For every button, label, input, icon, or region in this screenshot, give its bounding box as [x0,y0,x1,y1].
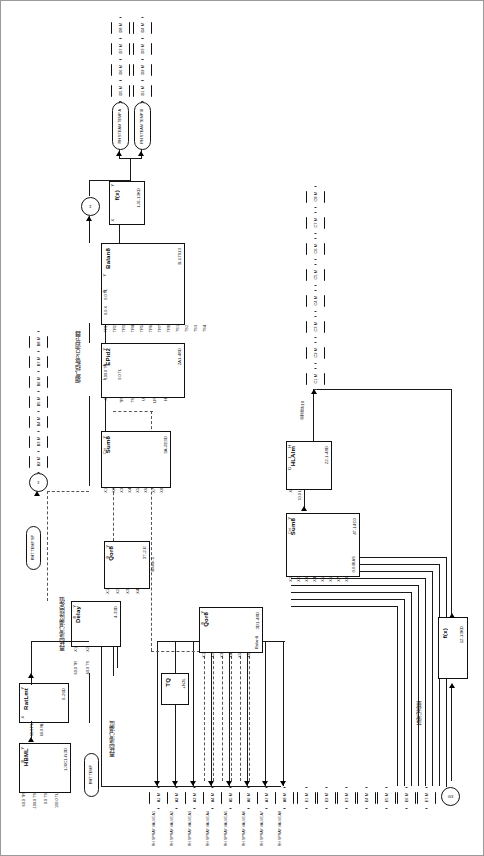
hex-tag[interactable]: A3 M [185,787,204,809]
block-tag: B-17013 [178,248,182,265]
pill-tag[interactable]: RH STEAM TEMP B [134,102,151,150]
hex-tag[interactable]: E6 M [397,787,416,809]
wire-dashed [47,491,89,492]
function-block-hlalm[interactable]: HLAlm 22-1-48D H L D [286,441,332,490]
summing-junction[interactable]: Σ [81,197,100,216]
function-block-fx[interactable]: f(x) 1J6-13KD Y X [109,181,145,225]
hex-tag[interactable]: B3 M [29,431,48,453]
hex-tag[interactable]: A4 M [203,787,222,809]
hex-tag[interactable]: B4 M [29,411,48,433]
hex-tag[interactable]: B6 M [29,371,48,393]
block-param: 10.0 L [299,490,303,501]
hex-tag[interactable]: E2 M [317,787,336,809]
hex-tag[interactable]: E5 M [377,787,396,809]
function-block-fx2[interactable]: f(x) 12-13KD [438,617,468,679]
hex-tag[interactable]: C7 M [306,212,325,234]
block-pin-in: X7 [153,488,157,493]
hex-tag-sub: RH SPRAY VALVE A2 [171,811,175,846]
pill-tag[interactable]: RHT TEMP SP [26,526,41,570]
hex-tag[interactable]: A7 M [257,787,276,809]
hex-tag[interactable]: D5 M [111,80,130,102]
function-block-qor8-a[interactable]: Qor8 3T-2-E Y B [104,541,150,589]
block-pin-in: TR1 [105,325,109,332]
hex-tag[interactable]: D6 M [111,59,130,81]
hex-tag[interactable]: C4 M [306,290,325,312]
hex-tag[interactable]: B2 M [29,451,48,473]
annotation-setpoint: 再热蒸汽温度给定值 [59,597,65,651]
block-tag: 4T-14C0 [353,518,357,535]
hex-tag[interactable]: C5 M [306,264,325,286]
wire [313,389,451,390]
block-pin-out: Cnt [289,528,293,534]
hex-tag[interactable]: E3 M [337,787,356,809]
hex-tag[interactable]: D7 M [111,38,130,60]
hex-tag-sub: RH SPRAY VALVE A5 [225,811,229,846]
function-block-sum8-b[interactable]: Sum8 4T-14C0 Y Cnt 0.0 BIAS [286,513,360,577]
block-pin-in: X2 [113,488,117,493]
hex-tag[interactable]: D8 M [111,17,130,39]
hex-tag[interactable]: D3 M [133,38,152,60]
block-pin-in: X1 [105,488,109,493]
block-pin-in: X8 [346,577,350,582]
block-pin-out: B [22,760,26,763]
block-pin-in: X5 [137,488,141,493]
function-block-qor8-b[interactable]: Qor8 3D1-48D Y B Balan8 [199,607,263,653]
hex-tag[interactable]: B7 M [29,351,48,373]
hex-tag[interactable]: E7 M [417,787,436,809]
hex-tag[interactable]: A6 M [239,787,258,809]
hex-tag[interactable]: C2 M [306,342,325,364]
tag-circle-label: G3 [448,794,453,799]
hex-tag[interactable]: D4 M [133,17,152,39]
hex-tag[interactable]: A1 M [149,787,168,809]
hex-tag[interactable]: A8 M [275,787,294,809]
hex-tag[interactable]: C1 M [306,368,325,390]
arrow-icon [301,506,307,511]
function-block-balan8[interactable]: Balan8 B-17013 Y B [101,243,185,325]
wire [404,599,405,786]
function-block-epid2[interactable]: EPid2 2A1-48D Y A L [101,343,185,398]
hex-tag[interactable]: C3 M [306,316,325,338]
wire [89,396,90,486]
hex-tag[interactable]: D1 M [133,80,152,102]
pill-tag[interactable]: RH STEAM TEMP A [112,102,129,150]
block-param: 0.0 X [105,306,109,315]
tag-circle[interactable]: G3 [441,787,460,806]
hex-tag-label: D5 M [119,86,123,96]
hex-tag-sub: RH SPRAY VALVE A3 [189,811,193,846]
pill-tag[interactable]: RHT TEMP [84,753,99,797]
wire [451,686,452,781]
function-block-sum8-a[interactable]: Sum8 3A-2E3D Y Cnt [101,431,171,488]
hex-tag[interactable]: B8 M [29,331,48,353]
function-block-ratlmt[interactable]: RatLmt 6-26D Y X [19,683,69,723]
annotation-temp: 再热蒸汽温度 [109,721,115,757]
hex-tag[interactable]: C8 M [306,186,325,208]
arrow-icon [138,151,144,156]
wire [211,641,212,786]
hex-tag-label: E2 M [325,793,329,802]
block-pin-in: TR2 [114,325,118,332]
hex-tag[interactable]: E1 M [297,787,316,809]
hex-tag[interactable]: A2 M [167,787,186,809]
summing-junction[interactable]: Σ [29,473,48,492]
block-pin-in: TR3 [123,325,127,332]
hex-tag-label: B6 M [37,377,41,386]
hex-tag-label: E4 M [365,793,369,802]
wire [175,641,176,786]
wire [313,389,314,441]
wire [157,641,158,786]
hex-tag[interactable]: E4 M [357,787,376,809]
block-param: 100.0 TL [56,793,60,808]
block-pin-out: Y [202,611,206,614]
hex-tag-label: D4 M [141,23,145,33]
function-block-hbml[interactable]: HBML 1J6C1-N3D Y B [19,743,71,793]
hex-tag[interactable]: B5 M [29,391,48,413]
hex-tag[interactable]: A5 M [221,787,240,809]
block-pin-in: X2 [87,647,91,652]
hex-tag[interactable]: D2 M [133,59,152,81]
hex-tag-label: C5 M [314,270,318,280]
hex-tag-label: E5 M [385,793,389,802]
function-block-tq[interactable]: TQ +N3L [161,673,189,705]
hex-tag-sub: RH SPRAY VALVE A6 [243,811,247,846]
wire [397,606,398,786]
hex-tag[interactable]: C6 M [306,238,325,260]
